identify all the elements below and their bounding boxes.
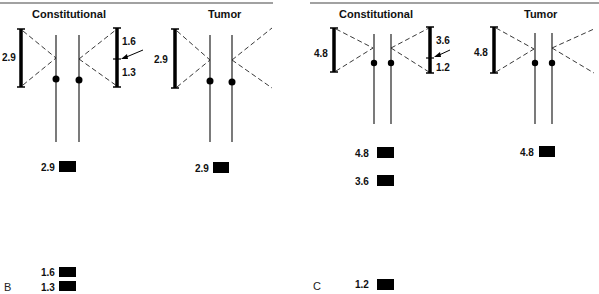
right-bracket-label-lower: 1.3 bbox=[122, 67, 136, 78]
centromere-dot bbox=[549, 60, 555, 66]
panel-b: Constitutional 2.9 1.6 1.3 bbox=[2, 8, 272, 293]
left-bracket-label: 4.8 bbox=[474, 47, 488, 58]
dashed-guide bbox=[391, 28, 429, 48]
dashed-guide bbox=[177, 60, 210, 87]
gel-band bbox=[377, 279, 394, 290]
panel-c-constitutional: Constitutional 4.8 3.6 1.2 4.8 3.6 bbox=[314, 8, 450, 290]
dashed-guide bbox=[79, 29, 117, 59]
gel-band bbox=[59, 267, 76, 277]
centromere-dot bbox=[371, 60, 377, 66]
right-bracket-label-upper: 3.6 bbox=[436, 35, 450, 46]
dashed-guide bbox=[23, 58, 56, 85]
panel-b-letter: B bbox=[4, 281, 11, 293]
panel-c-constitutional-title: Constitutional bbox=[339, 8, 413, 20]
diagram-canvas: Constitutional 2.9 1.6 1.3 bbox=[0, 0, 599, 294]
dashed-guide bbox=[496, 28, 534, 49]
dashed-guide bbox=[232, 28, 272, 60]
arrow-head-icon bbox=[121, 54, 128, 59]
dashed-guide bbox=[232, 60, 272, 88]
dashed-guide bbox=[23, 31, 56, 58]
panel-b-tumor-title: Tumor bbox=[208, 8, 242, 20]
gel-band bbox=[213, 162, 229, 173]
arrow-head-icon bbox=[434, 52, 441, 57]
left-bracket-label: 4.8 bbox=[314, 48, 328, 59]
gel-band bbox=[59, 161, 76, 172]
band-label: 3.6 bbox=[355, 176, 369, 187]
panel-c-letter: C bbox=[313, 280, 321, 292]
right-bracket-label-upper: 1.6 bbox=[122, 36, 136, 47]
band-label: 1.6 bbox=[41, 267, 55, 278]
panel-b-constitutional-title: Constitutional bbox=[32, 8, 106, 20]
gel-band bbox=[539, 146, 555, 157]
dashed-guide bbox=[177, 31, 210, 60]
centromere-dot bbox=[53, 76, 60, 83]
panel-c-tumor: Tumor 4.8 4.8 bbox=[474, 8, 594, 158]
band-label: 1.2 bbox=[355, 279, 369, 290]
band-label: 4.8 bbox=[355, 148, 369, 159]
right-bracket-label-lower: 1.2 bbox=[436, 62, 450, 73]
gel-band bbox=[377, 147, 394, 158]
panel-b-tumor: Tumor 2.9 2.9 bbox=[154, 8, 272, 174]
dashed-guide bbox=[552, 48, 594, 73]
dashed-guide bbox=[336, 48, 373, 71]
dashed-guide bbox=[336, 29, 373, 48]
band-label: 2.9 bbox=[195, 163, 209, 174]
centromere-dot bbox=[76, 77, 83, 84]
panel-b-constitutional: Constitutional 2.9 1.6 1.3 bbox=[2, 8, 143, 293]
band-label: 1.3 bbox=[41, 282, 55, 293]
gel-band bbox=[377, 175, 394, 186]
panel-c-tumor-title: Tumor bbox=[524, 8, 558, 20]
band-label: 2.9 bbox=[41, 162, 55, 173]
dashed-guide bbox=[552, 29, 594, 48]
dashed-guide bbox=[496, 49, 534, 72]
centromere-dot bbox=[207, 78, 214, 85]
dashed-guide bbox=[391, 48, 429, 72]
left-bracket-label: 2.9 bbox=[154, 54, 168, 65]
panel-c: Constitutional 4.8 3.6 1.2 4.8 3.6 bbox=[313, 8, 594, 292]
centromere-dot bbox=[532, 60, 538, 66]
gel-band bbox=[59, 281, 76, 291]
left-bracket-label: 2.9 bbox=[2, 52, 16, 63]
band-label: 4.8 bbox=[520, 147, 534, 158]
dashed-guide bbox=[79, 59, 117, 86]
centromere-dot bbox=[229, 79, 236, 86]
centromere-dot bbox=[388, 60, 394, 66]
